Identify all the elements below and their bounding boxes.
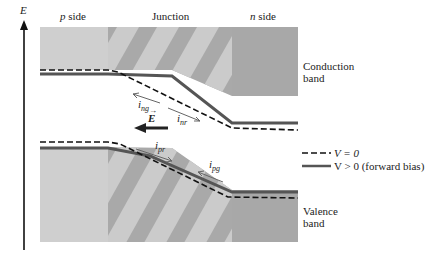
p-side-label-text: side <box>66 10 86 22</box>
legend-item-dashed-label: V = 0 <box>334 147 359 159</box>
junction-label: Junction <box>152 10 189 22</box>
valence-band-label: Valence band <box>303 205 338 229</box>
current-label-i-pg: ipg <box>209 158 220 172</box>
current-label-i-pr-sub: pr <box>158 145 165 154</box>
electric-field-arrow <box>134 123 168 133</box>
energy-axis-arrowhead <box>20 20 28 30</box>
current-label-i-pr: ipr <box>155 139 165 153</box>
current-label-i-nr-sub: nr <box>180 118 187 127</box>
conduction-band-label-line1: Conduction <box>303 60 354 72</box>
n-side-label: n side <box>250 10 276 22</box>
valence-band-region <box>40 110 320 250</box>
current-label-i-pg-sub: pg <box>212 164 220 173</box>
legend-item-dashed: V = 0 <box>334 147 359 159</box>
conduction-band-label: Conduction band <box>303 60 354 84</box>
current-label-i-nr: inr <box>177 112 187 126</box>
legend-item-solid: V > 0 (forward bias) <box>334 160 424 172</box>
p-side-label: p side <box>60 10 86 22</box>
energy-axis-label: E <box>20 4 27 16</box>
valence-band-label-line1: Valence <box>303 205 338 217</box>
legend-item-solid-label: V > 0 (forward bias) <box>334 160 424 172</box>
valence-band-label-line2: band <box>303 217 338 229</box>
n-side-label-text: side <box>256 10 276 22</box>
current-label-i-ng: ing <box>138 98 149 112</box>
pn-junction-band-diagram <box>0 0 438 263</box>
electric-field-vector-arrow: → <box>149 105 157 117</box>
conduction-band-label-line2: band <box>303 72 354 84</box>
electric-field-label: → E <box>148 112 155 124</box>
